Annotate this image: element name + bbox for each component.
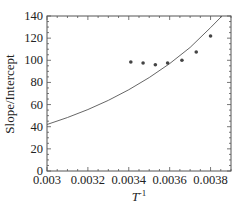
data-point: [129, 60, 133, 64]
x-tick-label: 0.0036: [152, 173, 186, 187]
y-tick-label: 120: [24, 31, 43, 45]
data-point: [209, 34, 213, 38]
chart: 0.0030.00320.00340.00360.003802040608010…: [0, 0, 241, 211]
data-point: [166, 61, 170, 65]
axis-ticks: [47, 16, 231, 171]
x-tick-label: 0.0032: [71, 173, 105, 187]
y-tick-label: 20: [31, 142, 44, 156]
y-tick-label: 100: [24, 53, 43, 67]
plot-border: [47, 16, 231, 171]
x-axis-label-superscript: -1: [139, 188, 147, 198]
data-points: [129, 34, 212, 66]
y-axis-label: Slope/Intercept: [2, 54, 17, 134]
tick-labels: 0.0030.00320.00340.00360.003802040608010…: [24, 9, 227, 187]
fit-line: [47, 16, 222, 125]
y-tick-label: 40: [31, 120, 44, 134]
data-point: [180, 58, 184, 62]
x-tick-label: 0.0034: [112, 173, 147, 187]
y-tick-label: 140: [24, 9, 43, 23]
y-tick-label: 60: [31, 98, 44, 112]
data-point: [141, 61, 145, 65]
data-point: [154, 63, 158, 67]
data-point: [194, 50, 198, 54]
y-tick-label: 0: [37, 164, 43, 178]
x-tick-label: 0.0038: [193, 173, 227, 187]
x-axis-label: T-1: [132, 188, 147, 204]
y-tick-label: 80: [31, 75, 44, 89]
plot-frame: [47, 16, 231, 171]
fitted-curve: [47, 16, 222, 125]
